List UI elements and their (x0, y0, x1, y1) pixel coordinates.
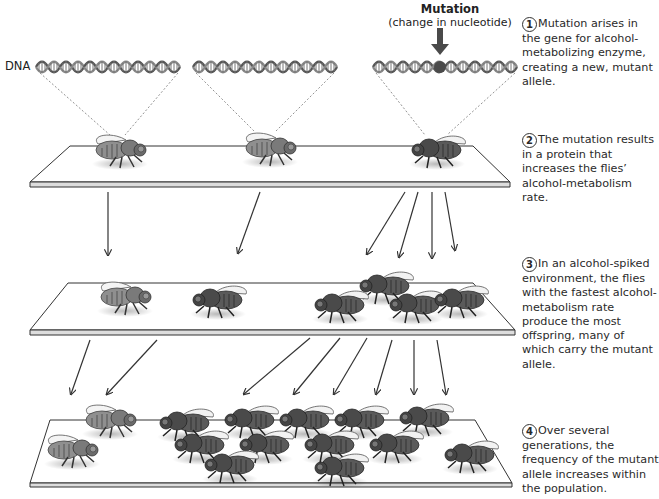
step-2-caption: 2The mutation results in a protein that … (522, 133, 659, 205)
mutation-subtitle: (change in nucleotide) (368, 16, 532, 29)
dna-strand-3-mutated (373, 61, 517, 73)
step-number-badge: 4 (522, 424, 537, 439)
zoom-lines (40, 73, 515, 135)
step-3-caption: 3In an alcohol-spiked environment, the f… (522, 257, 659, 372)
dna-label: DNA (5, 59, 30, 73)
mutation-title: Mutation (380, 2, 520, 16)
fly-wild-type (92, 135, 148, 170)
dna-strand-2 (193, 61, 337, 73)
arrows-gen1-to-gen2 (108, 192, 455, 258)
mutation-arrow-icon (431, 28, 449, 55)
arrows-gen2-to-gen3 (71, 338, 446, 394)
step-4-caption: 4Over several generations, the frequency… (522, 424, 659, 496)
step-number-badge: 3 (522, 257, 537, 272)
step-text: The mutation results in a protein that i… (522, 133, 654, 204)
dna-strand-1 (36, 61, 180, 73)
fly-wild-type (242, 133, 298, 168)
step-text: Over several generations, the frequency … (522, 424, 659, 495)
step-1-caption: 1Mutation arises in the gene for alcohol… (522, 17, 659, 89)
mutation-marker (434, 61, 446, 73)
step-number-badge: 2 (522, 133, 537, 148)
step-text: Mutation arises in the gene for alcohol-… (522, 17, 653, 88)
step-text: In an alcohol-spiked environment, the fl… (522, 257, 657, 371)
fly-mutant (409, 136, 465, 170)
step-number-badge: 1 (522, 17, 537, 32)
